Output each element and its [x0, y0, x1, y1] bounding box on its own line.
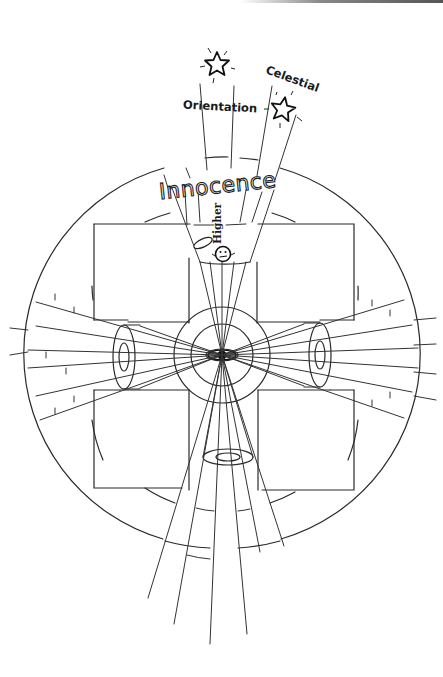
- celestial-beam: [257, 86, 296, 180]
- bottom-tube: [148, 355, 284, 644]
- face-icon: [212, 247, 235, 262]
- left-tube: [10, 294, 222, 420]
- right-tube: [222, 300, 436, 418]
- halo-icon: [192, 235, 214, 251]
- celestial-label: Celestial: [264, 63, 321, 95]
- star-icon: [264, 91, 302, 128]
- mandala-diagram: Orientation Celestial Innocence Higher: [0, 0, 443, 677]
- star-icon: [200, 48, 235, 83]
- orientation-label: Orientation: [183, 98, 258, 116]
- higher-label: Higher: [211, 202, 223, 244]
